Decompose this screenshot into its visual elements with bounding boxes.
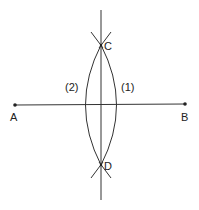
label-a: A — [10, 111, 18, 123]
point-b-dot — [183, 102, 187, 106]
label-d: D — [104, 160, 112, 172]
segment-ab — [15, 104, 185, 105]
label-b: B — [181, 111, 188, 123]
construction-diagram: A B C D (2) (1) — [0, 0, 199, 210]
point-a-dot — [13, 103, 17, 107]
label-arc-2: (2) — [65, 81, 78, 93]
label-c: C — [104, 40, 112, 52]
point-c-dot — [100, 44, 102, 46]
point-d-dot — [100, 164, 102, 166]
arc-1 — [101, 45, 117, 165]
label-arc-1: (1) — [121, 81, 134, 93]
